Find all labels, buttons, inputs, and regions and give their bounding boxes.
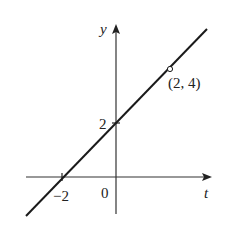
t-axis-label: t — [204, 185, 209, 201]
t-tick-label-neg2: −2 — [53, 188, 69, 204]
origin-label: 0 — [101, 185, 109, 201]
y-axis-label: y — [98, 21, 107, 37]
y-tick-label-2: 2 — [99, 116, 107, 132]
line-chart: y t 0 2 −2 (2, 4) — [0, 0, 229, 231]
point-label: (2, 4) — [168, 75, 201, 92]
open-point-marker — [167, 66, 172, 71]
t-axis — [26, 173, 212, 181]
